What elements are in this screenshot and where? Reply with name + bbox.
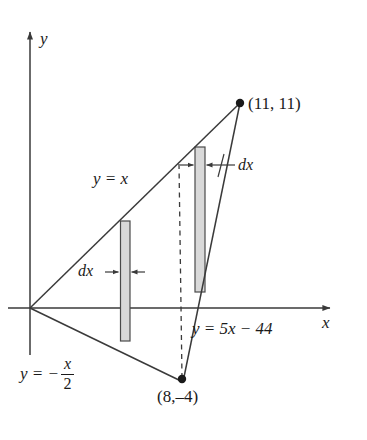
fraction-denominator: 2 [62,376,74,393]
dx-label-left-strip: dx [78,263,93,279]
axes-group [8,32,330,355]
fraction-x-over-2: x 2 [61,356,74,393]
curve-label-y-equals-5x-minus-44-text: y = 5x − 44 [192,319,273,338]
strips-group [121,147,206,341]
point-label-11-11: (11, 11) [248,95,301,112]
y-axis-label: y [40,30,48,47]
x-axis-label: x [322,314,330,331]
dx-label-right-strip: dx [238,157,253,173]
figure-container: y x y = x y = 5x − 44 y = − x 2 (11, 11)… [0,0,367,440]
left-strip-rect [121,221,131,341]
fraction-prefix: y = − [20,365,59,382]
curve-label-y-equals-x: y = x [93,170,128,187]
point-11-11-dot [236,99,244,107]
point-8-neg4-dot [178,375,186,383]
curve-label-y-equals-5x-minus-44: y = 5x − 44 [192,320,273,337]
line-y-equals-x [30,103,240,308]
right-strip-dx-arrows [180,154,235,177]
points-group [178,99,244,383]
right-strip-rect [195,147,205,292]
curve-label-y-equals-x-text: y = x [93,169,128,188]
line-y-equals-5x-minus-44 [183,103,240,382]
curve-label-y-equals-neg-x-over-2: y = − x 2 [20,355,74,392]
point-label-8-neg4: (8,–4) [157,388,198,405]
boundary-lines-group [30,103,240,382]
dashed-divider-line [179,164,182,378]
fraction-numerator: x [62,356,73,373]
